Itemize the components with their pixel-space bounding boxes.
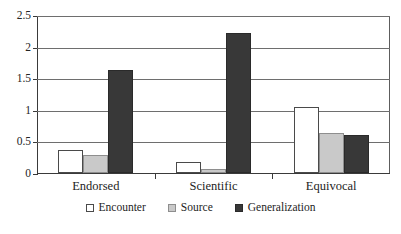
- plot-area: 00.511.522.5 EndorsedScientificEquivocal: [37, 16, 390, 174]
- y-tick-mark: [33, 111, 37, 112]
- y-tick-mark: [33, 174, 37, 175]
- plot-right-border: [389, 16, 390, 174]
- gridline-y-1-5: [37, 79, 390, 80]
- y-tick-label: 0.5: [17, 137, 31, 149]
- y-tick-mark: [33, 142, 37, 143]
- bar-scientific-encounter: [176, 162, 201, 173]
- y-tick-mark: [33, 48, 37, 49]
- bar-equivocal-generalization: [344, 135, 369, 173]
- y-tick-label: 2.5: [17, 10, 31, 22]
- bar-scientific-generalization: [226, 33, 251, 173]
- y-tick-mark: [33, 79, 37, 80]
- x-category-label-scientific: Scientific: [190, 180, 238, 193]
- bar-endorsed-encounter: [58, 150, 83, 173]
- legend-item-encounter[interactable]: Encounter: [86, 202, 146, 214]
- y-tick-label: 2: [25, 42, 31, 54]
- bar-scientific-source: [201, 169, 226, 173]
- x-tick-mark: [272, 174, 273, 179]
- legend-label-encounter: Encounter: [99, 202, 146, 214]
- legend-label-generalization: Generalization: [248, 202, 316, 214]
- gridline-y-1: [37, 111, 390, 112]
- grouped-bar-chart: 00.511.522.5 EndorsedScientificEquivocal…: [0, 0, 401, 234]
- legend-item-source[interactable]: Source: [168, 202, 213, 214]
- legend-swatch-generalization: [235, 204, 243, 212]
- gridline-y-2-5: [37, 16, 390, 17]
- y-tick-label: 0: [25, 168, 31, 180]
- legend-item-generalization[interactable]: Generalization: [235, 202, 316, 214]
- gridline-y-2: [37, 48, 390, 49]
- bar-equivocal-encounter: [294, 107, 319, 173]
- legend-label-source: Source: [181, 202, 213, 214]
- y-tick-label: 1.5: [17, 73, 31, 85]
- x-tick-mark: [155, 174, 156, 179]
- chart-legend: EncounterSourceGeneralization: [0, 202, 401, 214]
- bar-endorsed-generalization: [108, 70, 133, 173]
- x-axis-line: [37, 173, 390, 174]
- y-tick-mark: [33, 16, 37, 17]
- legend-swatch-source: [168, 204, 176, 212]
- y-axis-line: [37, 16, 38, 175]
- legend-swatch-encounter: [86, 204, 94, 212]
- bar-equivocal-source: [319, 133, 344, 173]
- bar-endorsed-source: [83, 155, 108, 173]
- x-category-label-equivocal: Equivocal: [306, 180, 357, 193]
- x-category-label-endorsed: Endorsed: [72, 180, 119, 193]
- y-tick-label: 1: [25, 105, 31, 117]
